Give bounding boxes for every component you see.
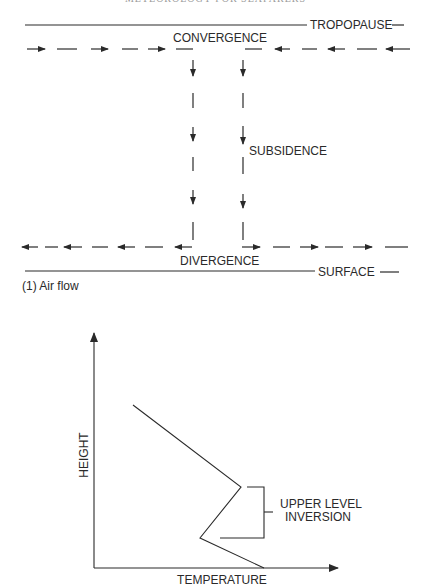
inversion-bracket — [220, 487, 264, 538]
tropopause-label: TROPOPAUSE — [310, 18, 392, 32]
surface-label: SURFACE — [318, 265, 375, 279]
figure-air-flow — [22, 25, 410, 272]
inversion-label-line1: UPPER LEVEL — [280, 497, 362, 511]
convergence-label: CONVERGENCE — [173, 31, 267, 45]
subsidence-label: SUBSIDENCE — [249, 144, 327, 158]
figure-temperature-profile — [94, 333, 338, 568]
divergence-label: DIVERGENCE — [180, 254, 259, 268]
figure-1-caption: (1) Air flow — [22, 279, 79, 293]
y-axis-label: HEIGHT — [77, 432, 91, 478]
inversion-label-line2: INVERSION — [285, 510, 351, 524]
x-axis-label: TEMPERATURE — [177, 573, 267, 587]
diagram-canvas: TROPOPAUSE CONVERGENCE SUBSIDENCE DIVERG… — [0, 0, 431, 588]
temperature-profile-line — [133, 405, 264, 568]
